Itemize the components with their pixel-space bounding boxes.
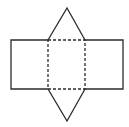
center-square-fold-lines xyxy=(48,40,85,89)
bottom-triangle xyxy=(48,89,85,121)
prism-net-diagram xyxy=(0,0,129,127)
left-rectangle xyxy=(11,40,48,89)
right-rectangle xyxy=(85,40,123,89)
top-triangle xyxy=(48,8,85,40)
